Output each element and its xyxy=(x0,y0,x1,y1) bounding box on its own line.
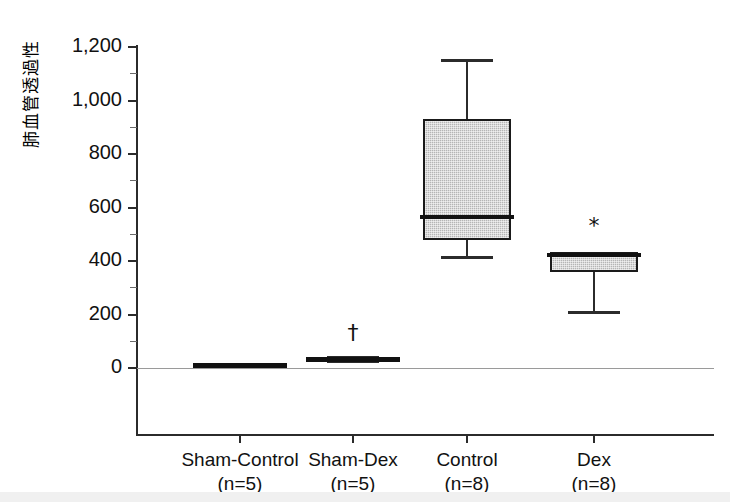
y-axis-title: 肺血管透過性 xyxy=(14,9,48,179)
y-minor-tick xyxy=(130,73,137,74)
y-minor-tick xyxy=(130,287,137,288)
median-line-sham-control xyxy=(193,363,287,368)
footer-strip xyxy=(0,492,730,502)
y-tick-400 xyxy=(128,260,137,262)
y-tick-label-text: 1,000 xyxy=(72,88,122,111)
boxplot-figure: 肺血管透過性 02004006008001,0001,200 Sham-Cont… xyxy=(0,0,730,502)
significance-marker-dex: * xyxy=(574,215,614,237)
median-line-sham-dex xyxy=(306,357,400,362)
y-tick-200 xyxy=(128,314,137,316)
y-tick-label-text: 200 xyxy=(89,302,122,325)
x-label-category: Dex xyxy=(577,449,611,470)
y-tick-0 xyxy=(128,367,137,369)
box-control xyxy=(423,119,511,240)
x-tick-control xyxy=(466,434,468,443)
y-tick-800 xyxy=(128,153,137,155)
x-tick-sham-dex xyxy=(352,434,354,443)
y-tick-label-text: 600 xyxy=(89,195,122,218)
whisker-upper-line xyxy=(466,59,468,119)
x-label-category: Control xyxy=(436,449,497,470)
x-tick-label-dex: Dex(n=8) xyxy=(509,448,679,496)
y-minor-tick xyxy=(130,180,137,181)
y-tick-label-text: 1,200 xyxy=(72,34,122,57)
x-axis-line xyxy=(136,434,714,436)
y-tick-600 xyxy=(128,207,137,209)
whisker-lower-cap xyxy=(568,311,620,314)
whisker-lower-cap xyxy=(441,256,493,259)
significance-marker-sham-dex: † xyxy=(333,322,373,344)
y-tick-1,200 xyxy=(128,46,137,48)
x-tick-dex xyxy=(593,434,595,443)
whisker-lower-line xyxy=(593,272,595,313)
x-tick-sham-control xyxy=(239,434,241,443)
y-axis-line xyxy=(136,45,138,435)
whisker-upper-cap xyxy=(441,59,493,62)
y-minor-tick xyxy=(130,127,137,128)
median-line-control xyxy=(420,215,514,219)
y-tick-label-text: 800 xyxy=(89,141,122,164)
y-tick-1,000 xyxy=(128,100,137,102)
y-minor-tick xyxy=(130,341,137,342)
y-tick-label-text: 0 xyxy=(111,355,122,378)
y-minor-tick xyxy=(130,234,137,235)
y-tick-label-text: 400 xyxy=(89,248,122,271)
median-line-dex xyxy=(547,253,641,257)
